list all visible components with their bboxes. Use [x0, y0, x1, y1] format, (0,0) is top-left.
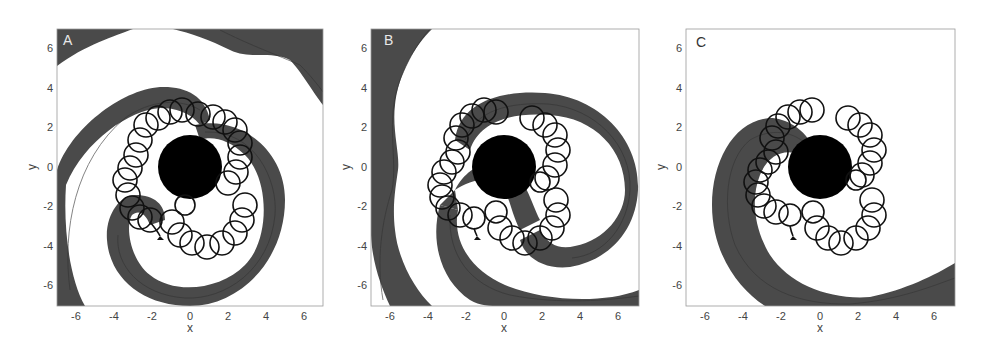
panel-a-plot-area: [57, 29, 323, 306]
svg-text:6: 6: [931, 310, 937, 322]
panel-c-y-ticks: 6 4 2 0 -2 -4 -6: [672, 42, 682, 291]
svg-text:4: 4: [676, 82, 682, 94]
panel-b: B -6 -4 -2 0 2 4 6 6 4 2 0 -2 -4 -6 x y: [339, 29, 639, 335]
svg-text:-4: -4: [423, 310, 433, 322]
svg-text:0: 0: [676, 161, 682, 173]
svg-text:2: 2: [47, 121, 53, 133]
svg-text:-4: -4: [43, 240, 53, 252]
svg-text:-4: -4: [738, 310, 748, 322]
svg-text:-6: -6: [357, 279, 367, 291]
svg-text:-6: -6: [385, 310, 395, 322]
panel-a-letter: A: [63, 32, 73, 48]
svg-text:-4: -4: [672, 240, 682, 252]
panel-c: C -6 -4 -2 0 2 4 6 6 4 2 0 -2 -4 -6 x y: [654, 29, 955, 335]
svg-text:-4: -4: [109, 310, 119, 322]
svg-text:-2: -2: [147, 310, 157, 322]
obstacle-disc: [472, 135, 536, 199]
panel-a: A -6 -4 -2 0 2 4 6 6 4 2 0 -2 -4 -6 x y: [25, 29, 323, 335]
figure: A -6 -4 -2 0 2 4 6 6 4 2 0 -2 -4 -6 x y: [0, 0, 990, 346]
svg-text:6: 6: [301, 310, 307, 322]
svg-text:-2: -2: [461, 310, 471, 322]
svg-text:4: 4: [263, 310, 269, 322]
svg-text:-4: -4: [357, 240, 367, 252]
svg-text:4: 4: [577, 310, 583, 322]
svg-text:6: 6: [47, 42, 53, 54]
panel-c-x-label: x: [817, 321, 823, 335]
svg-text:2: 2: [676, 121, 682, 133]
svg-text:-6: -6: [71, 310, 81, 322]
svg-text:4: 4: [893, 310, 899, 322]
obstacle-disc: [158, 135, 222, 199]
panel-b-letter: B: [384, 32, 393, 48]
svg-text:-2: -2: [672, 200, 682, 212]
panel-a-y-label: y: [25, 164, 39, 170]
panel-c-y-label: y: [654, 164, 668, 170]
panel-b-x-label: x: [501, 321, 507, 335]
svg-text:0: 0: [361, 161, 367, 173]
panel-c-letter: C: [696, 34, 706, 50]
svg-text:-2: -2: [357, 200, 367, 212]
obstacle-disc: [788, 135, 852, 199]
svg-text:-6: -6: [672, 279, 682, 291]
svg-text:2: 2: [539, 310, 545, 322]
panel-b-plot-area: [371, 29, 639, 306]
svg-text:4: 4: [47, 82, 53, 94]
svg-text:-6: -6: [700, 310, 710, 322]
panel-a-x-label: x: [187, 321, 193, 335]
svg-text:2: 2: [361, 121, 367, 133]
svg-text:-6: -6: [43, 279, 53, 291]
svg-text:4: 4: [361, 82, 367, 94]
svg-text:6: 6: [615, 310, 621, 322]
svg-text:-2: -2: [43, 200, 53, 212]
panel-b-y-ticks: 6 4 2 0 -2 -4 -6: [357, 42, 367, 291]
svg-text:6: 6: [676, 42, 682, 54]
svg-text:6: 6: [361, 42, 367, 54]
svg-text:-2: -2: [776, 310, 786, 322]
svg-text:0: 0: [47, 161, 53, 173]
svg-text:2: 2: [225, 310, 231, 322]
svg-text:2: 2: [855, 310, 861, 322]
panel-c-plot-area: [686, 29, 955, 306]
panel-b-y-label: y: [339, 164, 353, 170]
panel-a-y-ticks: 6 4 2 0 -2 -4 -6: [43, 42, 53, 291]
